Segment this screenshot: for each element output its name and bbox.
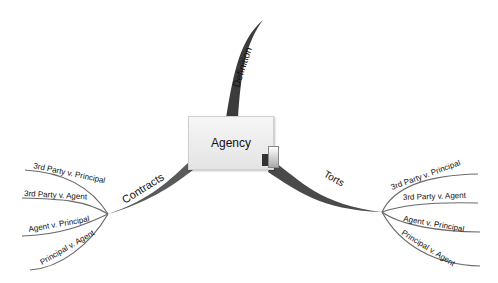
torts-child-2[interactable]: 3rd Party v. Agent — [403, 191, 467, 202]
attachment-icon[interactable] — [262, 146, 278, 168]
torts-child-4[interactable]: Principal v. Agent — [400, 228, 457, 268]
attachment-icon-light — [268, 146, 279, 168]
branch-torts-label[interactable]: Torts — [322, 168, 346, 188]
contracts-child-1[interactable]: 3rd Party v. Principal — [33, 161, 107, 185]
central-node-label: Agency — [211, 136, 251, 150]
branch-definition-label[interactable]: Definition — [230, 46, 253, 89]
branch-torts-line — [268, 160, 382, 212]
torts-child-1[interactable]: 3rd Party v. Principal — [390, 158, 462, 192]
contracts-child-3[interactable]: Agent v. Principal — [28, 214, 91, 234]
torts-child-3[interactable]: Agent v. Principal — [403, 214, 466, 234]
contracts-child-2[interactable]: 3rd Party v. Agent — [24, 189, 88, 201]
